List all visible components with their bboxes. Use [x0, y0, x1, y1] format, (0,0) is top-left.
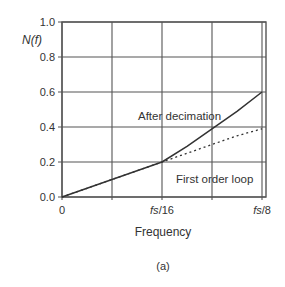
annotation-after-decimation: After decimation [138, 110, 221, 122]
figure-caption: (a) [156, 260, 169, 272]
y-tick-label: 0.4 [40, 121, 55, 133]
annotations: After decimationFirst order loop [138, 110, 253, 185]
x-axis-label: Frequency [135, 225, 192, 239]
y-axis-label: N(f) [22, 33, 42, 47]
annotation-first-order-loop: First order loop [176, 173, 253, 185]
chart-figure: 0.00.20.40.60.81.0 0fs/16fs/8 After deci… [0, 0, 285, 287]
y-tick-label: 0.0 [40, 191, 55, 203]
x-tick-label: 0 [59, 204, 65, 216]
y-tick-label: 1.0 [40, 16, 55, 28]
x-axis-ticks: 0fs/16fs/8 [59, 204, 271, 216]
y-tick-label: 0.2 [40, 156, 55, 168]
y-tick-label: 0.6 [40, 86, 55, 98]
y-tick-label: 0.8 [40, 51, 55, 63]
x-tick-label: fs/16 [150, 204, 174, 216]
x-tick-label: fs/8 [253, 204, 271, 216]
